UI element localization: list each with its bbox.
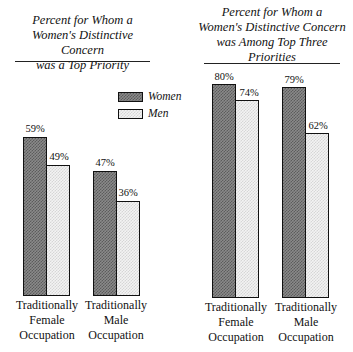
right-chart-title: Percent for Whom a Women's Distinctive C…	[198, 5, 346, 65]
right-title-underline	[204, 63, 340, 64]
legend-men-swatch	[118, 109, 143, 119]
category-label: Traditionally Female Occupation	[199, 300, 273, 345]
label-line: Traditionally	[269, 300, 343, 315]
title-line: Percent for Whom a	[10, 13, 155, 28]
left-chart-title: Percent for Whom a Women's Distinctive C…	[10, 13, 155, 73]
legend-women-label: Women	[148, 90, 181, 102]
label-line: Occupation	[269, 330, 343, 345]
category-label: Traditionally Male Occupation	[269, 300, 343, 345]
label-line: Male	[79, 313, 153, 328]
label-line: Traditionally	[10, 298, 84, 313]
label-line: Occupation	[10, 328, 84, 343]
legend-men-label: Men	[148, 107, 168, 119]
category-label: Traditionally Female Occupation	[10, 298, 84, 343]
value-label: 62%	[303, 120, 333, 131]
label-line: Female	[199, 315, 273, 330]
value-label: 47%	[90, 157, 120, 168]
title-line: Women's Distinctive Concern	[198, 20, 346, 35]
legend-women-swatch	[118, 92, 143, 102]
value-label: 59%	[20, 123, 50, 134]
left-title-underline	[15, 61, 150, 62]
bar-men-female-occ-top3	[235, 100, 259, 298]
value-label: 36%	[113, 187, 143, 198]
label-line: Occupation	[79, 328, 153, 343]
value-label: 79%	[279, 74, 309, 85]
bar-men-female-occ-top	[46, 165, 70, 296]
value-label: 49%	[44, 151, 74, 162]
label-line: Occupation	[199, 330, 273, 345]
title-line: Percent for Whom a	[198, 5, 346, 20]
label-line: Male	[269, 315, 343, 330]
bar-women-male-occ-top3	[282, 87, 306, 298]
category-label: Traditionally Male Occupation	[79, 298, 153, 343]
title-line: Women's Distinctive Concern	[10, 28, 155, 58]
value-label: 74%	[234, 87, 264, 98]
bar-men-male-occ-top3	[305, 133, 329, 298]
label-line: Traditionally	[79, 298, 153, 313]
bar-women-female-occ-top3	[212, 84, 236, 298]
label-line: Traditionally	[199, 300, 273, 315]
label-line: Female	[10, 313, 84, 328]
bar-men-male-occ-top	[116, 201, 140, 296]
title-line: was Among Top Three	[198, 35, 346, 50]
value-label: 80%	[209, 71, 239, 82]
